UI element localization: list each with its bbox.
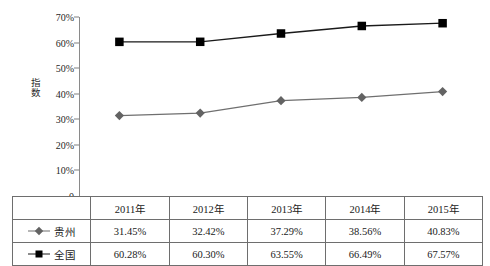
table-header-cell: 2011年 (91, 197, 169, 220)
table-cell: 37.29% (247, 220, 325, 243)
data-point-guizhou (115, 111, 124, 120)
legend-item-guizhou[interactable]: 贵州 (13, 220, 91, 243)
series-layer (0, 0, 490, 200)
data-point-national (115, 38, 124, 47)
table-header-cell: 2014年 (326, 197, 404, 220)
table-header-row: 2011年 2012年 2013年 2014年 2015年 (13, 197, 483, 220)
square-marker-icon (28, 249, 50, 259)
table-header-cell: 2013年 (247, 197, 325, 220)
table-cell: 67.57% (404, 243, 482, 266)
data-point-guizhou (438, 87, 447, 96)
data-point-guizhou (196, 108, 205, 117)
data-point-national (438, 19, 447, 28)
data-point-national (277, 29, 286, 38)
table-header-cell: 2012年 (169, 197, 247, 220)
data-point-guizhou (276, 96, 285, 105)
table-cell: 38.56% (326, 220, 404, 243)
legend-label-guizhou: 贵州 (54, 224, 75, 239)
table-row: 全国 60.28% 60.30% 63.55% 66.49% 67.57% (13, 243, 483, 266)
table-row: 贵州 31.45% 32.42% 37.29% 38.56% 40.83% (13, 220, 483, 243)
table-header-cell: 2015年 (404, 197, 482, 220)
data-table-wrap: 2011年 2012年 2013年 2014年 2015年 贵州 (12, 196, 483, 262)
table-cell: 63.55% (247, 243, 325, 266)
plot-area: 指数 70% 60% 50% 40% 30% 20% 10% 0 (0, 0, 490, 200)
data-point-national (358, 22, 367, 31)
data-table: 2011年 2012年 2013年 2014年 2015年 贵州 (12, 196, 483, 266)
legend-item-national[interactable]: 全国 (13, 243, 91, 266)
table-cell: 66.49% (326, 243, 404, 266)
markers-guizhou (115, 87, 447, 120)
table-cell: 31.45% (91, 220, 169, 243)
table-cell: 40.83% (404, 220, 482, 243)
table-corner-cell (13, 197, 91, 220)
table-cell: 60.28% (91, 243, 169, 266)
data-point-national (196, 38, 205, 47)
data-point-guizhou (357, 93, 366, 102)
table-cell: 32.42% (169, 220, 247, 243)
legend-label-national: 全国 (54, 247, 75, 262)
diamond-marker-icon (28, 226, 50, 236)
table-cell: 60.30% (169, 243, 247, 266)
